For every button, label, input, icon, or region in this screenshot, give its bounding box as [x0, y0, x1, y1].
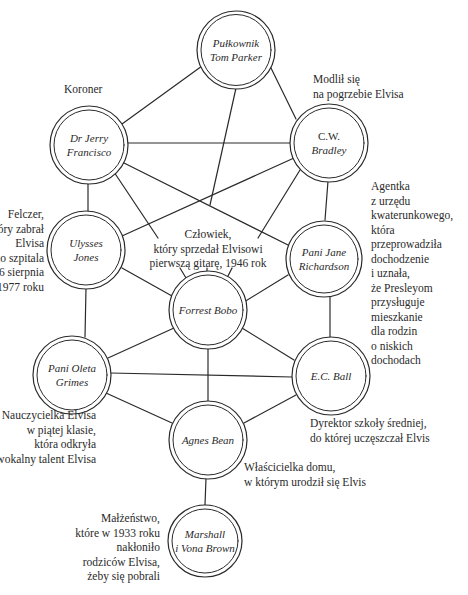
edge-grimes-bean: [106, 393, 172, 423]
annotation-line: na pogrzebie Elvisa: [313, 87, 404, 102]
node-label-francisco: Dr Jerry Francisco: [67, 131, 112, 159]
node-label-line: Ulysses: [69, 236, 103, 250]
annotation-line: Dyrektor szkoły średniej,: [310, 416, 430, 431]
annotation-line: w którym urodził się Elvis: [244, 475, 366, 490]
annotation-line: Człowiek,: [150, 227, 267, 242]
node-label-brown: Marshall i Vona Brown: [175, 527, 235, 555]
node-label-line: Agnes Bean: [182, 433, 234, 447]
annotation-line: wokalny talent Elvisa: [0, 452, 96, 467]
annotation-line: Felczer,: [0, 207, 44, 222]
annotation-line: z urzędu: [371, 194, 453, 209]
annotation-line: przysługuje: [371, 295, 453, 310]
annotation-line: które w 1933 roku: [75, 526, 160, 541]
edge-bobo-grimes: [108, 328, 174, 358]
annotation-line: który zabrał: [0, 222, 44, 237]
node-label-line: Bradley: [312, 143, 347, 157]
annotation-line: i uznała,: [371, 266, 453, 281]
annotation-line: Koroner: [64, 82, 102, 97]
node-label-line: Pułkownik: [210, 36, 262, 50]
node-label-grimes: Pani Oleta Grimes: [48, 361, 96, 389]
annotation-line: do której uczęszczał Elvis: [310, 431, 430, 446]
annotation-bradley: Modlił się na pogrzebie Elvisa: [313, 72, 404, 101]
node-label-line: Grimes: [48, 375, 96, 389]
node-label-line: Forrest Bobo: [179, 303, 238, 317]
annotation-line: Modlił się: [313, 72, 404, 87]
node-label-ball: E.C. Ball: [311, 369, 352, 383]
annotation-line: Małżeństwo,: [75, 511, 160, 526]
node-label-bradley: C.W. Bradley: [312, 129, 347, 157]
annotation-line: o niskich: [371, 339, 453, 354]
annotation-line: Nauczycielka Elvisa: [0, 408, 96, 423]
node-label-line: E.C. Ball: [311, 369, 352, 383]
annotation-line: dla rodzin: [371, 324, 453, 339]
edge-parker-bobo-upper: [210, 88, 236, 205]
annotation-bobo: Człowiek, który sprzedał Elvisowi pierws…: [150, 227, 267, 271]
edge-jones-bobo: [122, 268, 172, 296]
node-label-bobo: Forrest Bobo: [179, 303, 238, 317]
annotation-line: w piątej klasie,: [0, 423, 96, 438]
node-label-parker: Pułkownik Tom Parker: [210, 36, 262, 64]
node-label-line: Richardson: [299, 259, 349, 273]
node-label-jones: Ulysses Jones: [69, 236, 103, 264]
annotation-line: 16 sierpnia: [0, 265, 44, 280]
edge-richardson-bobo: [244, 275, 288, 302]
edge-bradley-richardson: [325, 181, 328, 220]
annotation-line: żeby się pobrali: [75, 569, 160, 584]
annotation-richardson: Agentka z urzędu kwaterunkowego, która p…: [371, 179, 453, 368]
annotation-line: Właścicielka domu,: [244, 460, 366, 475]
edge-bradley-jones: [122, 158, 294, 236]
annotation-line: rodziców Elvisa,: [75, 555, 160, 570]
annotation-line: kwaterunkowego,: [371, 208, 453, 223]
annotation-line: nakłoniło: [75, 540, 160, 555]
node-label-line: Pani Jane: [299, 245, 349, 259]
annotation-jones: Felczer, który zabrał Elvisa do szpitala…: [0, 207, 44, 294]
node-label-line: Francisco: [67, 145, 112, 159]
edge-ball-bean: [244, 395, 296, 423]
edge-bean-brown: [205, 478, 206, 505]
edge-bobo-ball: [242, 328, 294, 360]
node-label-line: i Vona Brown: [175, 541, 235, 555]
node-label-line: Pani Oleta: [48, 361, 96, 375]
annotation-grimes: Nauczycielka Elvisa w piątej klasie, któ…: [0, 408, 96, 466]
node-label-richardson: Pani Jane Richardson: [299, 245, 349, 273]
edge-parker-francisco: [122, 66, 202, 124]
annotation-line: która: [371, 223, 453, 238]
edge-grimes-ball: [110, 373, 292, 377]
edge-parker-bradley: [270, 66, 296, 119]
annotation-line: która odkryła: [0, 437, 96, 452]
annotation-line: dochodach: [371, 353, 453, 368]
annotation-line: przeprowadziła: [371, 237, 453, 252]
node-label-line: Marshall: [175, 527, 235, 541]
annotation-line: że Presleyom: [371, 281, 453, 296]
annotation-line: Elvisa: [0, 236, 44, 251]
annotation-brown: Małżeństwo, które w 1933 roku nakłoniło …: [75, 511, 160, 584]
node-label-line: Tom Parker: [210, 50, 262, 64]
annotation-francisco: Koroner: [64, 82, 102, 97]
annotation-line: mieszkanie: [371, 310, 453, 325]
node-label-line: Dr Jerry: [67, 131, 112, 145]
edge-jones-grimes: [85, 288, 86, 337]
annotation-bean: Właścicielka domu, w którym urodził się …: [244, 460, 366, 489]
annotation-ball: Dyrektor szkoły średniej, do której uczę…: [310, 416, 430, 445]
annotation-line: który sprzedał Elvisowi: [150, 242, 267, 257]
annotation-line: do szpitala: [0, 251, 44, 266]
annotation-line: dochodzenie: [371, 252, 453, 267]
annotation-line: pierwszą gitarę, 1946 rok: [150, 256, 267, 271]
node-label-line: Jones: [69, 250, 103, 264]
annotation-line: 1977 roku: [0, 280, 44, 295]
annotation-line: Agentka: [371, 179, 453, 194]
node-label-line: C.W.: [312, 129, 347, 143]
node-label-bean: Agnes Bean: [182, 433, 234, 447]
